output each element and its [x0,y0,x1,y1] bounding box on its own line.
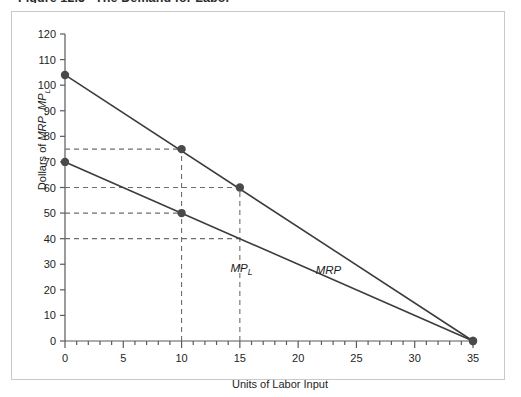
y-axis-title-term2: MP [36,94,48,111]
data-point-marker [61,158,69,166]
curve-label-mrp: MRP [316,264,342,276]
x-axis-tick-label: 5 [120,352,126,364]
x-axis-tick-label: 15 [234,352,246,364]
series-line-mp-l [65,162,473,341]
y-axis-title-term2-sub: L [43,89,52,93]
chart-plot-area: 0102030405060708090100110120051015202530… [12,12,504,379]
data-point-marker [236,183,244,191]
x-axis-tick-label: 30 [409,352,421,364]
y-axis-tick-label: 10 [44,309,56,321]
x-axis-tick-label: 20 [292,352,304,364]
data-point-marker [177,145,185,153]
x-axis-title: Units of Labor Input [76,378,484,390]
x-axis-tick-label: 0 [62,352,68,364]
chart-svg: 0102030405060708090100110120051015202530… [12,12,506,381]
y-axis-title-prefix: Dollars of [36,141,48,191]
x-axis-tick-label: 35 [467,352,479,364]
series-line-mrp [65,75,473,341]
y-axis-tick-label: 0 [50,335,56,347]
y-axis-tick-label: 20 [44,284,56,296]
chart-canvas: 0102030405060708090100110120051015202530… [38,28,479,364]
figure-frame: 0102030405060708090100110120051015202530… [11,11,505,380]
x-axis-tick-label: 10 [175,352,187,364]
x-axis-tick-label: 25 [350,352,362,364]
data-point-marker [177,209,185,217]
y-axis-tick-label: 120 [38,28,56,40]
data-point-marker [469,337,477,345]
y-axis-title-sep: , [36,110,48,116]
y-axis-tick-label: 40 [44,233,56,245]
figure-caption-number: Figure 12.5 [18,0,85,3]
figure-caption-title: The Demand for Labor [95,0,230,3]
y-axis-title-term1: MRP [36,116,48,140]
data-point-marker [61,71,69,79]
y-axis-tick-label: 30 [44,258,56,270]
curve-label-mpl-sub: L [248,267,253,277]
curve-label-mpl-base: MP [231,262,249,274]
y-axis-title: Dollars of MRP, MPL [36,60,51,220]
curve-label-mpl: MPL [231,262,253,278]
figure-caption: Figure 12.5The Demand for Labor [18,0,230,3]
